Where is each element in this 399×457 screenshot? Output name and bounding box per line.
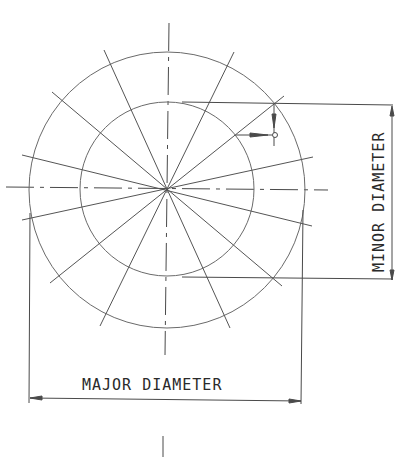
thread-diameter-drawing: MAJOR DIAMETER MINOR DIAMETER	[0, 0, 399, 457]
construction-marker	[236, 104, 278, 146]
minor-extension-top	[182, 102, 393, 105]
minor-arrow-top	[390, 106, 394, 116]
minor-diameter-label: MINOR DIAMETER	[370, 132, 388, 272]
major-arrow-right	[289, 399, 301, 403]
major-arrow-left	[30, 396, 42, 400]
major-dimension-line	[30, 398, 301, 401]
major-extension-right	[301, 210, 303, 404]
major-diameter-label: MAJOR DIAMETER	[82, 376, 222, 394]
radial-lines	[22, 50, 313, 328]
minor-extension-bottom	[182, 277, 393, 279]
minor-diameter-dimension	[182, 102, 394, 280]
major-extension-left	[29, 213, 30, 403]
